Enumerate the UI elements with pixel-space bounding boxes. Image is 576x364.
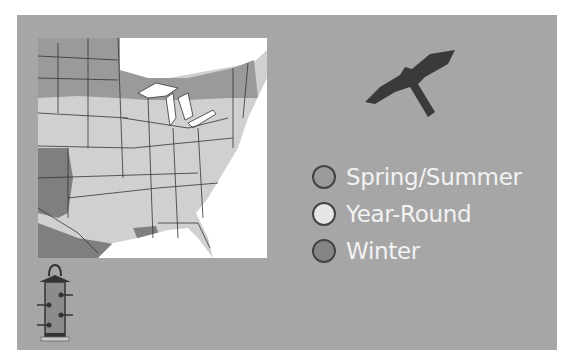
winter-swatch-icon <box>312 239 336 263</box>
year-round-swatch-icon <box>312 202 336 226</box>
hawk-silhouette-icon <box>360 42 460 122</box>
us-range-map-graphic <box>38 38 267 258</box>
legend-item-winter: Winter <box>312 232 522 269</box>
legend-label: Spring/Summer <box>346 164 522 190</box>
legend: Spring/Summer Year-Round Winter <box>312 158 522 269</box>
range-map <box>38 38 267 258</box>
legend-item-year-round: Year-Round <box>312 195 522 232</box>
legend-label: Winter <box>346 238 420 264</box>
legend-item-spring-summer: Spring/Summer <box>312 158 522 195</box>
spring-summer-swatch-icon <box>312 165 336 189</box>
legend-label: Year-Round <box>346 201 471 227</box>
bird-feeder-icon <box>33 262 78 347</box>
